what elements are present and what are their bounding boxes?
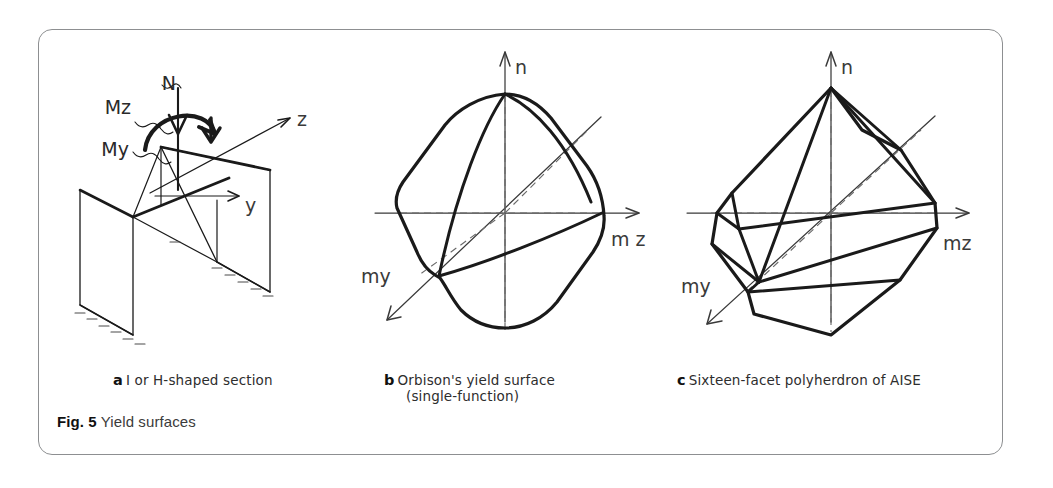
ground-hatching (75, 242, 273, 344)
moment-arrows (145, 110, 220, 150)
panel-a-caption-text: I or H-shaped section (126, 372, 273, 388)
orbison-yield-surface-svg: n m z my (339, 30, 669, 350)
axis-label-n: n (841, 56, 853, 78)
load-label-N: N (162, 72, 176, 94)
surface-ridges (439, 94, 602, 276)
hidden-axis-dashes (400, 95, 604, 331)
panel-b-letter: b (384, 372, 395, 388)
web-bold-edge (133, 178, 229, 217)
aise-polyhedron-svg: n mz my (659, 30, 1004, 350)
figure-frame: N Mz My z y aI or H-shaped section (38, 29, 1003, 455)
i-section-sketch-svg: N Mz My z y (47, 30, 347, 350)
panel-c: n mz my cSixteen-facet polyherdron of AI… (659, 30, 1004, 370)
panel-b-caption-line2: (single-function) (406, 388, 555, 405)
figure-caption: Fig. 5Yield surfaces (57, 413, 196, 430)
axis-label-z: z (297, 108, 307, 130)
panel-b-caption-line1: Orbison's yield surface (398, 372, 555, 388)
load-label-My: My (101, 138, 129, 160)
axis-label-my: my (681, 275, 711, 297)
panel-c-artwork: n mz my (659, 30, 1004, 350)
dash-my-inner (419, 213, 505, 275)
hidden-axis-dashes (711, 90, 935, 332)
yield-surface-outline (396, 94, 604, 328)
panel-a-letter: a (113, 372, 123, 388)
panel-b-caption: bOrbison's yield surface (single-functio… (384, 355, 555, 421)
axis-my (387, 117, 601, 320)
y-axis (117, 191, 239, 225)
polyhedron-outline (712, 88, 937, 335)
axis-my (707, 116, 935, 324)
panel-a-artwork: N Mz My z y (47, 30, 347, 350)
figure-caption-text: Yield surfaces (101, 413, 196, 430)
panel-a-caption: aI or H-shaped section (113, 355, 273, 388)
panel-b-artwork: n m z my (339, 30, 669, 350)
axis-label-my: my (361, 265, 391, 287)
facet-edges (712, 88, 937, 292)
panel-b: n m z my bOrbison's yield surface (singl… (339, 30, 669, 370)
leader-My (133, 152, 171, 164)
axis-label-mz: m z (611, 228, 646, 250)
load-label-Mz: Mz (105, 96, 131, 118)
near-flange-plate (80, 190, 133, 335)
panel-c-caption-text: Sixteen-facet polyherdron of AISE (689, 372, 921, 388)
axis-label-y: y (245, 194, 256, 216)
axis-label-n: n (515, 56, 527, 78)
figure-number: Fig. 5 (57, 413, 97, 430)
panel-c-letter: c (677, 372, 686, 388)
axis-label-mz: mz (943, 232, 972, 254)
panel-a: N Mz My z y aI or H-shaped section (47, 30, 347, 370)
panel-c-caption: cSixteen-facet polyherdron of AISE (677, 355, 921, 388)
